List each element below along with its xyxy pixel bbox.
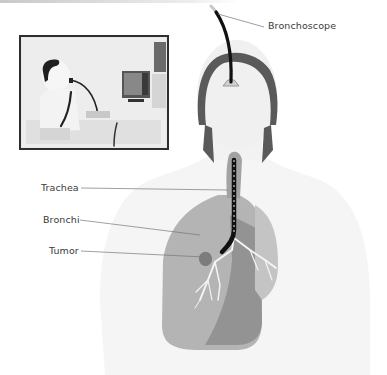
inset-photo: [20, 36, 168, 149]
label-tumor: Tumor: [49, 245, 79, 256]
label-trachea: Trachea: [41, 182, 79, 193]
head: [197, 40, 278, 163]
label-bronchi: Bronchi: [43, 214, 80, 225]
tumor: [199, 252, 212, 266]
label-bronchoscope: Bronchoscope: [268, 20, 336, 31]
